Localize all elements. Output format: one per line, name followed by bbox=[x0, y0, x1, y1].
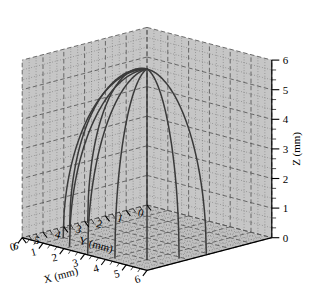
z-tick-label: 6 bbox=[283, 54, 289, 66]
z-tick-label: 2 bbox=[283, 173, 289, 185]
x-tick-label: 5 bbox=[112, 267, 121, 280]
z-tick-label: 4 bbox=[283, 113, 289, 125]
axis-tick bbox=[48, 245, 50, 248]
x-tick-label: 4 bbox=[92, 261, 101, 274]
z-tick-label: 3 bbox=[283, 143, 289, 155]
axis-tick bbox=[138, 269, 140, 272]
x-tick-label: 2 bbox=[50, 251, 58, 264]
chart-canvas: 012345601234560123456X (mm)Y (mm)Z (mm) bbox=[0, 0, 333, 292]
axis-tick bbox=[110, 261, 112, 264]
axis-tick bbox=[89, 256, 91, 259]
x-tick-label: 1 bbox=[29, 245, 37, 258]
x-axis-label: X (mm) bbox=[42, 264, 80, 286]
z-tick-label: 0 bbox=[283, 232, 289, 244]
axis-tick bbox=[117, 263, 119, 266]
x-tick-label: 6 bbox=[133, 272, 142, 285]
axis-tick bbox=[96, 258, 98, 261]
axis-tick bbox=[80, 254, 84, 259]
axis-tick bbox=[60, 249, 64, 255]
axis-tick bbox=[39, 243, 43, 249]
axis-tick bbox=[68, 250, 70, 253]
z-axis-label: Z (mm) bbox=[290, 132, 303, 166]
axis-tick bbox=[55, 247, 57, 250]
axis-tick bbox=[27, 240, 29, 243]
axis-tick bbox=[143, 270, 147, 276]
axis-tick bbox=[101, 260, 105, 266]
axis-tick bbox=[131, 267, 133, 270]
z-tick-label: 5 bbox=[283, 84, 289, 96]
axis-tick bbox=[75, 252, 77, 255]
z-tick-label: 1 bbox=[283, 202, 289, 214]
axis-tick bbox=[122, 265, 126, 271]
